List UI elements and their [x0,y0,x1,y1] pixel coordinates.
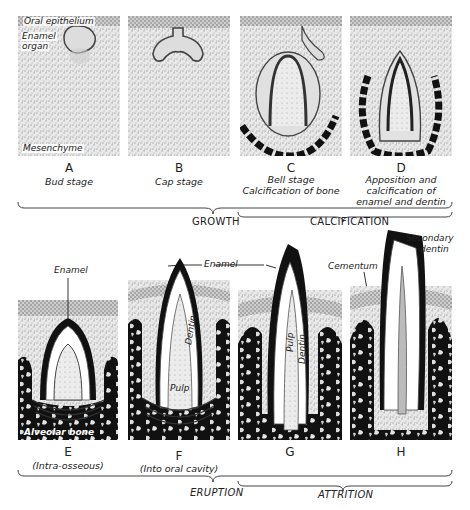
phase-attrition: ATTRITION [318,490,373,500]
phase-eruption: ERUPTION [190,488,243,498]
eruption-brace [0,0,470,510]
